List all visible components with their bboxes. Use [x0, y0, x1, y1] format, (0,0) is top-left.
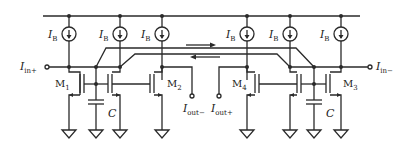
current-source-ib6 — [334, 14, 348, 67]
label-out-minus: Iout− — [183, 103, 205, 117]
label-in-plus: Iin+ — [20, 61, 37, 75]
capacitor-right — [306, 100, 322, 130]
current-source-ib1 — [62, 14, 76, 67]
label-ib1: IB — [48, 29, 58, 43]
label-ib6: IB — [320, 29, 330, 43]
label-in-minus: Iin− — [376, 61, 393, 75]
transistor-right-mirror — [288, 65, 314, 130]
port-in-plus — [45, 65, 49, 69]
arrow-right-icon — [186, 43, 216, 48]
transistor-left-mirror — [96, 67, 150, 130]
label-c-right: C — [326, 108, 334, 119]
arrow-left-icon — [190, 55, 220, 60]
port-out-plus — [217, 94, 221, 98]
label-ib2: IB — [99, 29, 109, 43]
label-m3: M3 — [343, 79, 358, 92]
label-m4: M4 — [232, 79, 247, 92]
label-m1: M1 — [55, 79, 70, 92]
transistor-m1 — [69, 67, 96, 130]
label-ib3: IB — [141, 29, 151, 43]
label-ib4: IB — [226, 29, 236, 43]
port-out-minus — [190, 94, 194, 98]
transistor-m2 — [150, 65, 194, 130]
label-out-plus: Iout+ — [211, 103, 233, 117]
transistor-m3 — [314, 67, 341, 130]
cross-wire-lower — [120, 54, 290, 67]
label-c-left: C — [108, 108, 116, 119]
transistor-m4 — [217, 65, 297, 130]
circuit-schematic — [0, 0, 412, 151]
label-m2: M2 — [167, 79, 182, 92]
current-source-ib5 — [283, 14, 297, 67]
current-source-ib2 — [113, 14, 127, 67]
label-ib5: IB — [269, 29, 279, 43]
port-in-minus — [368, 65, 372, 69]
ground-icon — [62, 130, 348, 138]
